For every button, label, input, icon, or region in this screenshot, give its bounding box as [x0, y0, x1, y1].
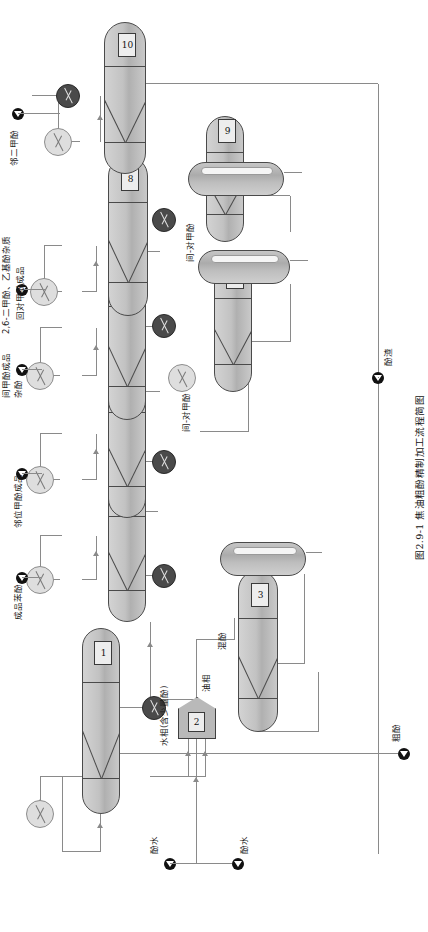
condenser-icon-10[interactable]: [44, 128, 72, 156]
pipe-segment: [44, 245, 62, 246]
stream-marker-phenol-water-in: [232, 858, 244, 870]
column-1[interactable]: 1: [82, 628, 120, 814]
packing-cross: [105, 67, 145, 143]
pipe-segment: [290, 196, 291, 232]
pipe-segment: [120, 83, 378, 84]
label-aqueous-phase: 水相(含少量酚): [160, 685, 169, 746]
pipe-segment: [284, 172, 302, 173]
condenser-icon-5[interactable]: [26, 466, 54, 494]
unit-tag-1: 1: [94, 641, 112, 665]
label-crude-phenol: 粗酚: [392, 724, 401, 742]
packing-cross: [109, 517, 145, 591]
level-gauge: [201, 167, 273, 175]
pipe-segment: [96, 246, 97, 292]
pipe-product-5: [22, 473, 42, 474]
packing-cross: [109, 307, 145, 387]
stream-marker-xylenol: [16, 364, 28, 376]
pipe-segment: [290, 284, 291, 342]
condenser-icon-1[interactable]: [26, 800, 54, 828]
flow-arrow-icon: [93, 261, 99, 266]
condenser-icon-6[interactable]: [26, 362, 54, 390]
label-dimethyl-mix: 2,6-二甲酚、乙基酚杂质: [2, 236, 11, 334]
label-phenol-water-out: 酚水: [150, 836, 159, 854]
figure-page: 1 3 4: [0, 0, 428, 932]
pipe-crude-phenol: [120, 753, 398, 754]
pipe-segment: [100, 814, 101, 852]
figure-caption: 图2.9-1 焦油粗酚精制加工流程简图: [412, 395, 426, 560]
pipe-segment: [96, 536, 97, 580]
pipe-segment: [82, 375, 96, 376]
pipe-segment: [304, 574, 305, 664]
condenser-icon-7[interactable]: [168, 364, 196, 392]
packing-cross: [239, 619, 277, 699]
condenser-icon-8[interactable]: [30, 278, 58, 306]
reboiler-icon-6[interactable]: [152, 314, 176, 338]
reboiler-icon-4[interactable]: [152, 564, 176, 588]
pipe-segment: [205, 739, 206, 777]
pipe-segment: [150, 622, 151, 700]
label-meta-para-cresol: 间-对甲酚: [182, 393, 191, 432]
unit-tag-label: 2: [194, 718, 200, 727]
reboiler-icon-8[interactable]: [152, 208, 176, 232]
pipe-segment: [258, 731, 318, 732]
flow-arrow-icon: [193, 777, 199, 782]
pipe-segment: [82, 479, 96, 480]
unit-tag-label: 9: [224, 127, 230, 136]
pipe-segment: [234, 618, 235, 640]
packing-cross: [215, 299, 251, 365]
pipe-segment: [82, 579, 96, 580]
stream-marker-phenol-water-out: [164, 858, 176, 870]
condenser-icon-4[interactable]: [26, 566, 54, 594]
process-flow-diagram: 1 3 4: [0, 0, 428, 932]
pipe-phenol-water-feed: [196, 739, 197, 864]
pipe-segment: [82, 291, 96, 292]
pipe-phenol-water: [170, 863, 232, 864]
label-phenol-residue: 酚渣: [384, 348, 393, 366]
pipe-segment: [40, 535, 62, 536]
reboiler-icon-5[interactable]: [152, 450, 176, 474]
label-para-cresol-return: 回对甲酚成品: [16, 266, 25, 320]
label-ortho-cresol: 邻位甲酚成品: [14, 474, 23, 528]
label-phenol-product: 成品苯酚: [14, 584, 23, 620]
unit-tag-label: 8: [127, 175, 133, 184]
stream-marker-ortho-xylenol: [12, 108, 24, 120]
label-oil-phase: 油相: [202, 674, 211, 692]
label-phenol-water-in: 酚水: [240, 836, 249, 854]
label-ortho-xylenol: 邻二甲酚: [10, 130, 19, 166]
pipe-segment: [32, 95, 58, 96]
flow-arrow-icon: [93, 345, 99, 350]
unit-tag-label: 3: [257, 591, 263, 600]
pipe-segment: [188, 739, 189, 777]
pipe-segment: [306, 552, 322, 553]
stream-marker-crude-phenol: [398, 748, 410, 760]
reflux-drum-9[interactable]: [188, 162, 284, 196]
flow-arrow-icon: [93, 449, 99, 454]
label-mp-cresol-return: 间-对甲酚: [186, 223, 195, 262]
pipe-residue-stub: [378, 377, 379, 378]
reflux-drum-3[interactable]: [220, 542, 306, 576]
unit-tag-label: 1: [100, 649, 106, 658]
reboiler-icon-10[interactable]: [56, 84, 80, 108]
flow-arrow-icon: [97, 115, 103, 120]
pipe-segment: [40, 327, 62, 328]
unit-tag-2: 2: [188, 712, 205, 732]
label-meta-cresol: 间甲酚成品: [2, 353, 11, 398]
column-8[interactable]: 8: [108, 156, 148, 316]
stream-marker-phenol-product: [16, 572, 28, 584]
pipe-segment: [40, 776, 62, 777]
column-3[interactable]: 3: [238, 570, 278, 732]
packing-cross: [83, 683, 119, 779]
column-10[interactable]: 10: [104, 22, 146, 174]
reflux-drum-7[interactable]: [198, 250, 290, 284]
pipe-segment: [96, 434, 97, 480]
pipe-segment: [40, 433, 62, 434]
pipe-segment: [200, 431, 248, 432]
stream-marker-phenol-residue: [372, 372, 384, 384]
residue-header-pipe: [378, 84, 379, 854]
label-mixed-phenol: 混酚: [218, 632, 227, 650]
flow-arrow-icon: [93, 551, 99, 556]
level-gauge: [233, 547, 297, 555]
pipe-segment: [62, 776, 82, 777]
pipe-segment: [196, 639, 234, 640]
unit-tag-10: 10: [118, 33, 136, 57]
